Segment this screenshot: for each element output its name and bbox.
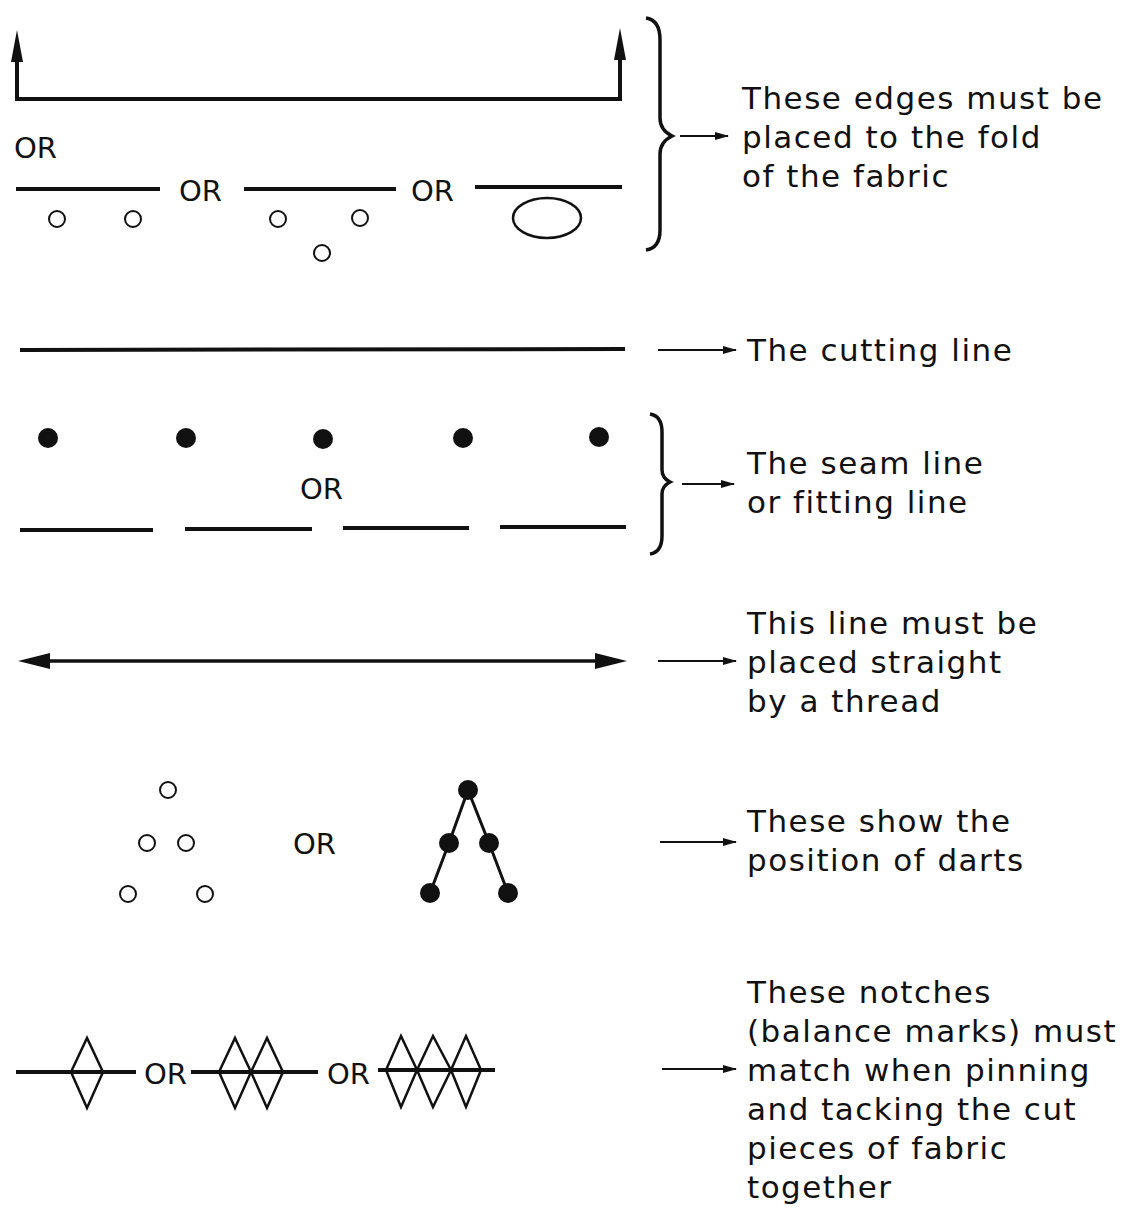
seam-dashed-line-icon [20,527,626,530]
dart-filled-chevron-icon [420,780,518,903]
darts-description: These show the position of darts [747,802,1025,880]
cutting-line-description: The cutting line [747,331,1013,370]
grain-line-double-arrow-icon [18,653,627,669]
or-label: OR [293,827,336,861]
or-label: OR [300,472,343,506]
brace-icon [646,18,672,250]
fold-line-three-circles-icon [244,189,396,261]
fold-line-two-circles-icon [16,189,141,227]
fold-bracket-arrows-icon [11,28,626,99]
notch-single-diamond-icon [16,1038,136,1108]
fold-description: These edges must be placed to the fold o… [742,79,1104,196]
cutting-line-icon [20,349,625,350]
or-label: OR [14,131,57,165]
notch-triple-diamond-icon [378,1036,495,1107]
grain-line-description: This line must be placed straight by a t… [747,604,1038,721]
seam-dots-icon [38,427,609,449]
seam-line-description: The seam line or fitting line [747,444,984,522]
brace-icon [650,414,670,554]
dart-open-circles-icon [120,782,213,902]
or-label: OR [327,1057,370,1091]
notch-double-diamond-icon [191,1038,318,1108]
or-label: OR [144,1057,187,1091]
fold-line-oval-icon [475,187,622,238]
or-label: OR [411,174,454,208]
notches-description: These notches (balance marks) must match… [747,973,1117,1207]
fold-symbols: OR OR OR [11,28,626,261]
or-label: OR [179,174,222,208]
